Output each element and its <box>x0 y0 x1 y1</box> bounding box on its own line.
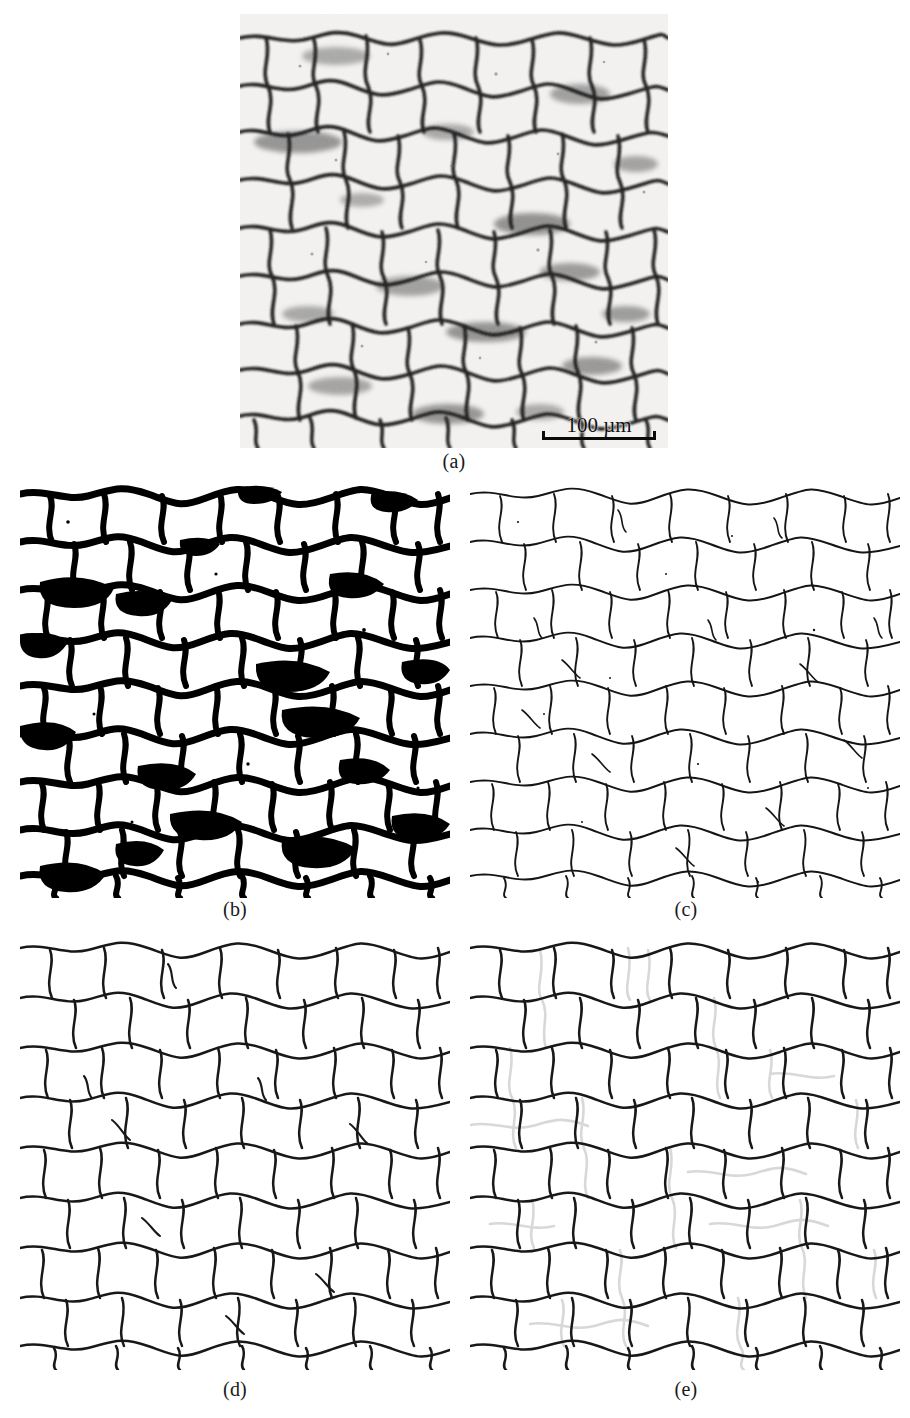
panel-a-micrograph: 100 µm <box>240 14 668 448</box>
panel-label-b: (b) <box>175 898 295 921</box>
skeleton-image <box>470 478 900 898</box>
scale-bar: 100 µm <box>542 414 656 440</box>
panel-c-skeleton <box>470 478 900 898</box>
panel-label-d: (d) <box>175 1378 295 1401</box>
scale-bar-label: 100 µm <box>542 414 656 436</box>
panel-label-c: (c) <box>626 898 746 921</box>
boundary-overlay-image <box>470 930 900 1370</box>
panel-label-e: (e) <box>626 1378 746 1401</box>
figure-root: 100 µm (a) <box>0 0 910 1418</box>
panel-e-overlay <box>470 930 900 1370</box>
micrograph-image <box>240 14 668 448</box>
panel-b-binary <box>20 478 450 898</box>
scale-bar-line <box>542 437 656 440</box>
panel-d-smoothed <box>20 930 450 1370</box>
smoothed-boundaries-image <box>20 930 450 1370</box>
binary-threshold-image <box>20 478 450 898</box>
panel-label-a: (a) <box>394 450 514 473</box>
